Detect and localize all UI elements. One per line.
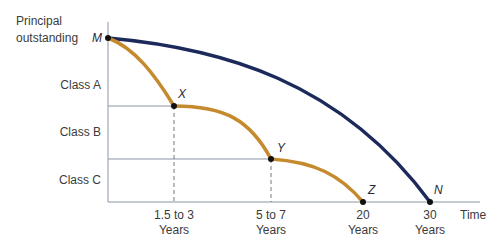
point-z xyxy=(360,199,366,205)
x-tick-4: 30 Years xyxy=(400,208,460,238)
collateral-curve xyxy=(108,38,430,202)
y-axis-label: outstanding xyxy=(16,31,78,45)
point-z-label: Z xyxy=(368,183,375,197)
x-tick-3: 20 Years xyxy=(333,208,393,238)
point-m-label: M xyxy=(92,31,102,45)
x-tick-4-value: 30 xyxy=(400,208,460,223)
x-tick-3-unit: Years xyxy=(333,223,393,238)
class-b-label: Class B xyxy=(41,125,101,139)
x-axis-label: Time xyxy=(460,208,486,222)
x-tick-2-unit: Years xyxy=(241,223,301,238)
tranche-curve-b xyxy=(174,106,271,159)
point-y-label: Y xyxy=(277,141,285,155)
point-y xyxy=(268,156,274,162)
tranche-curve-a xyxy=(108,38,174,106)
class-a-label: Class A xyxy=(41,78,101,92)
x-tick-1-value: 1.5 to 3 xyxy=(144,208,204,223)
tranche-curve-c xyxy=(271,159,363,202)
point-m xyxy=(105,35,111,41)
x-tick-2: 5 to 7 Years xyxy=(241,208,301,238)
x-tick-1-unit: Years xyxy=(144,223,204,238)
class-c-label: Class C xyxy=(41,173,101,187)
y-axis-label-line1: Principal xyxy=(16,14,62,28)
point-n xyxy=(427,199,433,205)
x-tick-1: 1.5 to 3 Years xyxy=(144,208,204,238)
point-x-label: X xyxy=(178,87,186,101)
x-tick-4-unit: Years xyxy=(400,223,460,238)
x-tick-3-value: 20 xyxy=(333,208,393,223)
x-tick-2-value: 5 to 7 xyxy=(241,208,301,223)
point-x xyxy=(171,103,177,109)
point-n-label: N xyxy=(434,183,443,197)
